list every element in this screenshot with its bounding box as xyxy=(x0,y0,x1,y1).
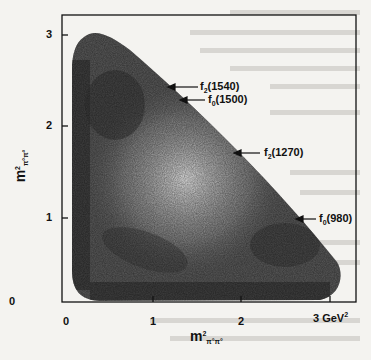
annotation-sub: 2 xyxy=(204,87,208,94)
annotation-f0-980: f0(980) xyxy=(319,212,352,224)
annotation-mass: (1270) xyxy=(272,146,304,158)
y-axis-label-sup: 2 xyxy=(14,166,21,170)
x-axis-label-main: m xyxy=(190,328,202,344)
y-tick-2: 2 xyxy=(46,119,52,131)
annotation-mass: (1540) xyxy=(208,80,240,92)
x-tick-1: 1 xyxy=(150,315,156,327)
density-region xyxy=(60,20,360,310)
annotation-sub: 2 xyxy=(268,153,272,160)
x-tick-0: 0 xyxy=(63,315,69,327)
annotation-f2-1270: f2(1270) xyxy=(264,146,303,158)
x-axis-label: m2π°π° xyxy=(190,328,223,344)
y-axis-label-main: m xyxy=(12,170,28,182)
dalitz-plot xyxy=(0,0,371,360)
y-axis-label: m2π°π° xyxy=(12,136,28,196)
x-tick-3: 3 GeV2 xyxy=(313,312,348,324)
annotation-mass: (980) xyxy=(327,212,353,224)
x-axis-label-sub: π°π° xyxy=(206,338,222,345)
annotation-f2-1540: f2(1540) xyxy=(200,80,239,92)
y-tick-0: 0 xyxy=(9,295,15,307)
x-tick-3-text: 3 GeV xyxy=(313,312,344,324)
annotation-sub: 0 xyxy=(323,219,327,226)
x-axis-label-sup: 2 xyxy=(202,330,206,337)
y-tick-3: 3 xyxy=(46,28,52,40)
annotation-mass: (1500) xyxy=(216,93,248,105)
annotation-sub: 0 xyxy=(212,100,216,107)
x-tick-2: 2 xyxy=(238,315,244,327)
y-tick-1: 1 xyxy=(46,211,52,223)
y-axis-label-sub: π°π° xyxy=(22,150,29,166)
x-tick-3-sup: 2 xyxy=(344,311,348,318)
annotation-f0-1500: f0(1500) xyxy=(208,93,247,105)
